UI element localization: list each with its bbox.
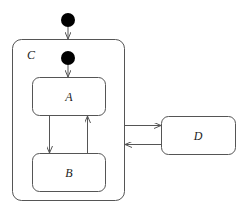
initial-state-inner (61, 51, 75, 65)
state-a-label: A (64, 90, 73, 104)
state-d-label: D (193, 129, 203, 143)
state-diagram: C A B D (0, 0, 244, 220)
state-a[interactable]: A (33, 78, 106, 116)
state-d[interactable]: D (162, 117, 236, 155)
state-b-label: B (65, 166, 73, 180)
state-b[interactable]: B (33, 154, 106, 192)
state-c-label: C (27, 48, 36, 62)
initial-state-outer (61, 13, 75, 27)
